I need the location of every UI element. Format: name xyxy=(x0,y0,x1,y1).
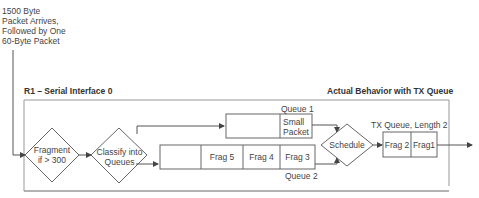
queue2-cell: Frag 5 xyxy=(201,152,243,162)
schedule-label: Schedule xyxy=(321,140,373,150)
queue2-label: Queue 2 xyxy=(285,171,318,181)
input-note-line: 1500 Byte xyxy=(2,6,66,16)
incoming-arrow xyxy=(13,50,25,155)
diagram-canvas xyxy=(0,0,479,198)
queue1-cell: Small Packet xyxy=(283,117,311,137)
classify-line: Queues xyxy=(92,157,147,167)
router-label: R1 – Serial Interface 0 xyxy=(24,86,112,96)
queue1-label: Queue 1 xyxy=(281,104,314,114)
behavior-label: Actual Behavior with TX Queue xyxy=(327,86,453,96)
input-note-line: Packet Arrives, xyxy=(2,16,66,26)
classify-label: Classify into Queues xyxy=(92,147,147,167)
queue2-cell: Frag 4 xyxy=(243,152,280,162)
queue2-cell: Frag 3 xyxy=(280,152,315,162)
classify-line: Classify into xyxy=(92,147,147,157)
fragment-label: Fragment if > 300 xyxy=(27,145,77,165)
fragment-line: if > 300 xyxy=(27,155,77,165)
input-note-line: 60-Byte Packet xyxy=(2,36,66,46)
fragment-line: Fragment xyxy=(27,145,77,155)
input-note: 1500 Byte Packet Arrives, Followed by On… xyxy=(2,6,66,46)
tx-queue-label: TX Queue, Length 2 xyxy=(371,120,448,130)
tx-queue-cell: Frag1 xyxy=(411,140,437,150)
tx-queue-cell: Frag 2 xyxy=(383,140,411,150)
input-note-line: Followed by One xyxy=(2,26,66,36)
